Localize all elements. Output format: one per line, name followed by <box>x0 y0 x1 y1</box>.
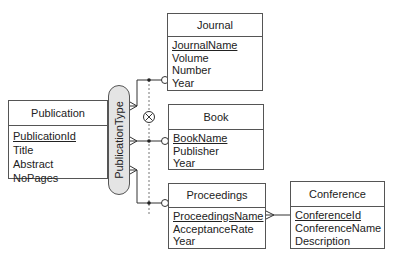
entity-title: Publication <box>9 101 107 126</box>
entity-publication: Publication PublicationId Title Abstract… <box>8 100 108 179</box>
discriminator-label: PublicationType <box>113 101 125 179</box>
attribute: AcceptanceRate <box>173 223 265 236</box>
entity-title: Conference <box>291 182 384 207</box>
entity-journal: Journal JournalName Volume Number Year <box>167 13 263 91</box>
attribute: ConferenceName <box>295 222 384 235</box>
entity-title: Proceedings <box>169 184 265 208</box>
attribute: Abstract <box>13 157 107 171</box>
attribute: Year <box>172 77 262 90</box>
attribute: Volume <box>172 52 262 65</box>
attribute-key: ProceedingsName <box>173 210 265 223</box>
attribute: Publisher <box>173 145 263 158</box>
entity-book: Book BookName Publisher Year <box>168 104 264 170</box>
entity-conference: Conference ConferenceId ConferenceName D… <box>290 181 385 249</box>
attribute-key: JournalName <box>172 39 262 52</box>
entity-proceedings: Proceedings ProceedingsName AcceptanceRa… <box>168 183 266 249</box>
attribute-key: ConferenceId <box>295 209 384 222</box>
entity-title: Journal <box>168 14 262 37</box>
attribute-key: BookName <box>173 132 263 145</box>
attribute-key: PublicationId <box>13 129 107 143</box>
disjoint-icon <box>144 112 155 123</box>
attribute: Year <box>173 157 263 170</box>
attribute: Year <box>173 235 265 248</box>
entity-title: Book <box>169 105 263 130</box>
attribute: Title <box>13 143 107 157</box>
attribute: Number <box>172 64 262 77</box>
attribute: Description <box>295 235 384 248</box>
attribute: NoPages <box>13 171 107 185</box>
discriminator-publication-type: PublicationType <box>108 85 130 195</box>
